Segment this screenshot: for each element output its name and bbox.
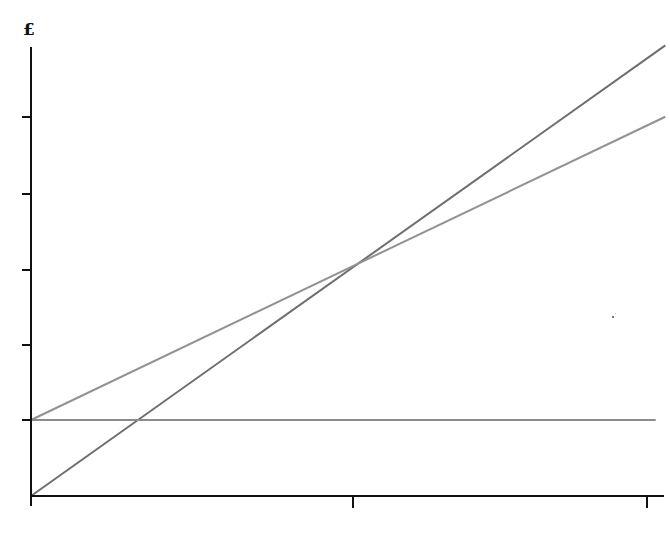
- break-even-chart: [0, 0, 670, 539]
- axes: [22, 47, 664, 508]
- series-layer: [31, 45, 665, 496]
- speck: [612, 316, 614, 318]
- total-cost-line: [31, 117, 665, 420]
- total-revenue-line: [31, 45, 665, 496]
- scan-specks: [612, 313, 616, 318]
- speck: [615, 313, 616, 314]
- y-axis-label: £: [23, 21, 35, 38]
